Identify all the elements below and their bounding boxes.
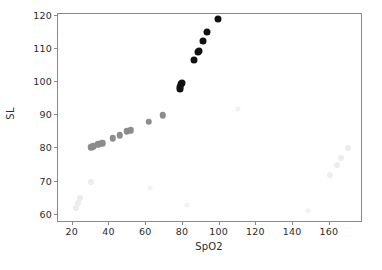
y-tick-label: 70 [40, 175, 53, 186]
x-tick-label: 40 [102, 226, 115, 237]
scatter-point [116, 132, 123, 139]
scatter-point [88, 179, 94, 185]
scatter-point [200, 37, 207, 44]
scatter-point [345, 145, 351, 151]
y-tick-label: 100 [33, 76, 52, 87]
x-tick-label: 120 [246, 226, 265, 237]
scatter-point [184, 202, 189, 207]
scatter-point [214, 16, 221, 23]
x-tick-label: 20 [65, 226, 78, 237]
y-tick-mark [54, 81, 57, 82]
scatter-point [95, 141, 102, 148]
scatter-point [204, 28, 211, 35]
x-tick-mark [145, 222, 146, 225]
scatter-point [305, 209, 310, 214]
x-tick-mark [72, 222, 73, 225]
x-tick-mark [255, 222, 256, 225]
scatter-point [75, 200, 81, 206]
y-tick-mark [54, 147, 57, 148]
scatter-point [196, 48, 203, 55]
y-tick-label: 110 [33, 42, 52, 53]
y-tick-label: 80 [40, 142, 53, 153]
scatter-point [88, 144, 95, 151]
scatter-point [178, 80, 185, 87]
x-tick-mark [292, 222, 293, 225]
x-tick-label: 80 [176, 226, 189, 237]
x-tick-mark [219, 222, 220, 225]
scatter-point [126, 128, 133, 135]
scatter-point [338, 155, 344, 161]
scatter-point [73, 205, 79, 211]
scatter-point [194, 49, 201, 56]
scatter-point [123, 128, 130, 135]
scatter-point [334, 162, 340, 168]
scatter-plot-figure: 20406080100120140160 60708090100110120 S… [0, 0, 382, 270]
scatter-point [110, 135, 117, 142]
y-tick-mark [54, 214, 57, 215]
y-tick-mark [54, 181, 57, 182]
y-tick-mark [54, 15, 57, 16]
scatter-point [176, 85, 183, 92]
x-tick-mark [329, 222, 330, 225]
y-tick-mark [54, 48, 57, 49]
scatter-point [99, 140, 106, 147]
scatter-point [159, 112, 166, 119]
scatter-point [97, 140, 104, 147]
y-tick-mark [54, 114, 57, 115]
x-tick-mark [108, 222, 109, 225]
x-tick-label: 100 [209, 226, 228, 237]
x-tick-label: 160 [320, 226, 339, 237]
x-axis-label: SpO2 [0, 241, 382, 252]
x-tick-label: 60 [139, 226, 152, 237]
x-tick-mark [182, 222, 183, 225]
scatter-point [147, 186, 152, 191]
scatter-point [327, 172, 333, 178]
x-axis-label-text: SpO2 [195, 241, 223, 252]
y-tick-label: 120 [33, 9, 52, 20]
scatter-point [177, 84, 184, 91]
scatter-point [146, 119, 153, 126]
x-tick-label: 140 [283, 226, 302, 237]
scatter-point [191, 57, 198, 64]
scatter-point [179, 80, 186, 87]
scatter-point [77, 195, 83, 201]
y-axis-label: SL [5, 107, 16, 119]
scatter-point [236, 106, 241, 111]
plot-area [57, 13, 362, 222]
y-tick-label: 60 [40, 208, 53, 219]
y-tick-label: 90 [40, 109, 53, 120]
scatter-point [128, 127, 135, 134]
scatter-point [90, 143, 97, 150]
